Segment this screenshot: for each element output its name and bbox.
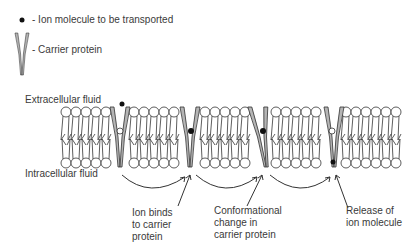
- binding-site-empty-1: [117, 128, 123, 134]
- intracellular-label: Intracellular fluid: [25, 168, 98, 180]
- carrier-protein-3: [248, 107, 276, 167]
- legend-carrier-label: - Carrier protein: [32, 44, 102, 56]
- carrier-protein-1: [110, 107, 130, 167]
- pointer-lines: [178, 175, 348, 208]
- ion-transit: [260, 128, 266, 134]
- carrier-protein-2: [180, 107, 200, 167]
- annotation-release: Release ofion molecule: [346, 205, 402, 229]
- ion-legend-icon: [20, 18, 25, 23]
- carrier-legend-icon: [15, 33, 29, 75]
- annotation-conformational-change: Conformationalchange incarrier protein: [214, 205, 282, 241]
- ion-bound: [188, 128, 194, 134]
- binding-site-empty-4: [329, 128, 335, 134]
- transition-arrows: [122, 175, 330, 188]
- extracellular-label: Extracellular fluid: [25, 94, 101, 106]
- ion-released: [331, 160, 336, 165]
- ion-outside: [120, 102, 125, 107]
- legend-ion-label: - Ion molecule to be transported: [32, 14, 173, 26]
- annotation-ion-binds: Ion bindsto carrierprotein: [132, 207, 173, 243]
